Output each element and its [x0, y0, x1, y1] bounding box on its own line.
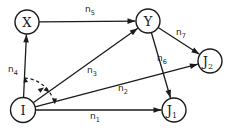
node-X-label: X — [22, 15, 32, 30]
graph-diagram: n5n4n3n2n1n7n6XYJ2IJ1 — [0, 0, 235, 131]
node-J1: J1 — [162, 98, 186, 122]
node-J2: J2 — [198, 49, 222, 73]
edge-n5 — [39, 21, 136, 22]
node-Y-label: Y — [143, 14, 153, 29]
node-X: X — [15, 10, 39, 34]
node-Y: Y — [136, 9, 160, 33]
node-I: I — [11, 98, 36, 123]
figure-canvas: n5n4n3n2n1n7n6XYJ2IJ1 — [0, 0, 235, 131]
node-I-label: I — [20, 103, 25, 118]
